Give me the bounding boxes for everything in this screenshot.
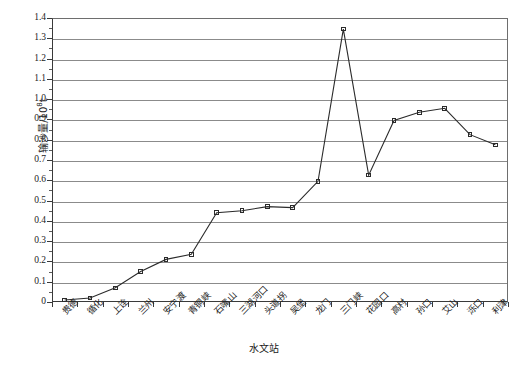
x-axis-tick-mark bbox=[52, 302, 53, 307]
gridline bbox=[53, 242, 507, 243]
y-axis-tick-mark bbox=[47, 18, 52, 19]
data-point-marker bbox=[290, 205, 295, 210]
y-axis-tick-label: 0.9 bbox=[22, 114, 46, 124]
y-axis-tick-label: 0.1 bbox=[22, 277, 46, 287]
data-point-marker bbox=[164, 257, 169, 262]
y-axis-tick-label: 1.3 bbox=[22, 33, 46, 43]
data-point-marker bbox=[417, 110, 422, 115]
data-point-marker bbox=[341, 27, 346, 32]
y-axis-tick-label: 0.4 bbox=[22, 216, 46, 226]
y-axis-tick-mark bbox=[47, 119, 52, 120]
data-point-marker bbox=[316, 179, 321, 184]
gridline bbox=[53, 39, 507, 40]
gridline bbox=[53, 222, 507, 223]
y-axis-tick-mark bbox=[47, 221, 52, 222]
y-axis-minor-tick bbox=[49, 190, 52, 191]
y-axis-tick-label: 0.6 bbox=[22, 175, 46, 185]
y-axis-tick-label: 0.3 bbox=[22, 236, 46, 246]
y-axis-minor-tick bbox=[49, 89, 52, 90]
y-axis-tick-mark bbox=[47, 79, 52, 80]
y-axis-tick-mark bbox=[47, 180, 52, 181]
y-axis-minor-tick bbox=[49, 28, 52, 29]
y-axis-tick-label: 1.2 bbox=[22, 54, 46, 64]
gridline bbox=[53, 80, 507, 81]
data-point-marker bbox=[240, 208, 245, 213]
data-point-marker bbox=[138, 269, 143, 274]
gridline bbox=[53, 120, 507, 121]
y-axis-minor-tick bbox=[49, 130, 52, 131]
gridline bbox=[53, 181, 507, 182]
y-axis-minor-tick bbox=[49, 272, 52, 273]
y-axis-tick-label: 1.0 bbox=[22, 94, 46, 104]
y-axis-minor-tick bbox=[49, 211, 52, 212]
gridline bbox=[53, 262, 507, 263]
data-point-marker bbox=[493, 143, 498, 148]
data-point-marker bbox=[189, 252, 194, 257]
gridline bbox=[53, 161, 507, 162]
y-axis-minor-tick bbox=[49, 231, 52, 232]
y-axis-tick-mark bbox=[47, 160, 52, 161]
y-axis-tick-mark bbox=[47, 201, 52, 202]
y-axis-minor-tick bbox=[49, 170, 52, 171]
y-axis-tick-label: 0.8 bbox=[22, 135, 46, 145]
y-axis-tick-label: 1.4 bbox=[22, 13, 46, 23]
plot-area bbox=[52, 18, 508, 302]
y-axis-tick-label: 0.2 bbox=[22, 256, 46, 266]
y-axis-tick-label: 0.7 bbox=[22, 155, 46, 165]
gridline bbox=[53, 141, 507, 142]
y-axis-tick-mark bbox=[47, 261, 52, 262]
y-axis-minor-tick bbox=[49, 69, 52, 70]
y-axis-tick-label: 0 bbox=[22, 297, 46, 307]
data-point-marker bbox=[265, 204, 270, 209]
data-point-marker bbox=[214, 210, 219, 215]
y-axis-tick-mark bbox=[47, 140, 52, 141]
y-axis-minor-tick bbox=[49, 109, 52, 110]
data-point-marker bbox=[392, 118, 397, 123]
y-axis-tick-mark bbox=[47, 59, 52, 60]
data-point-marker bbox=[88, 296, 93, 301]
data-point-marker bbox=[366, 173, 371, 178]
y-axis-tick-mark bbox=[47, 38, 52, 39]
y-axis-tick-label: 0.5 bbox=[22, 196, 46, 206]
y-axis-minor-tick bbox=[49, 292, 52, 293]
y-axis-minor-tick bbox=[49, 251, 52, 252]
y-axis-tick-mark bbox=[47, 99, 52, 100]
chart-figure: 输沙量/108t 00.10.20.30.40.50.60.70.80.91.0… bbox=[0, 0, 527, 367]
y-axis-tick-label: 1.1 bbox=[22, 74, 46, 84]
x-axis-title: 水文站 bbox=[0, 340, 527, 355]
y-axis-minor-tick bbox=[49, 48, 52, 49]
y-axis-minor-tick bbox=[49, 150, 52, 151]
y-axis-tick-mark bbox=[47, 282, 52, 283]
gridline bbox=[53, 60, 507, 61]
y-axis-tick-mark bbox=[47, 241, 52, 242]
data-point-marker bbox=[113, 286, 118, 291]
gridline bbox=[53, 283, 507, 284]
data-point-marker bbox=[442, 106, 447, 111]
gridline bbox=[53, 202, 507, 203]
data-point-marker bbox=[468, 132, 473, 137]
data-point-marker bbox=[62, 298, 67, 303]
gridline bbox=[53, 100, 507, 101]
